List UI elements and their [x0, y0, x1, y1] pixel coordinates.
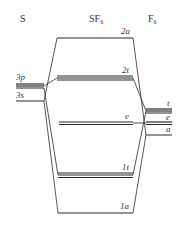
mo-label-1a: 1a [120, 201, 130, 211]
fluorine-label-a: a [166, 124, 171, 134]
correlation-lines-left [44, 38, 58, 213]
mo-level-2t [57, 76, 133, 80]
mo-label-e: e [125, 111, 129, 121]
column-label-sf6: SF6 [89, 13, 103, 25]
mo-level-1t [58, 173, 133, 178]
sulfur-level-3p [16, 84, 44, 88]
sulfur-label-3s: 3s [15, 90, 25, 100]
mo-label-1t: 1t [122, 162, 130, 172]
mo-level-e [59, 122, 133, 125]
fluorine-label-t: t [167, 98, 170, 108]
mo-diagram: S SF6 F6 3p 3s 2a 2t e 1t 1a t [0, 0, 183, 226]
column-label-sulfur: S [20, 13, 26, 24]
fluorine-label-e: e [166, 112, 170, 122]
sulfur-label-3p: 3p [15, 72, 26, 82]
mo-label-2a: 2a [121, 26, 131, 36]
column-label-f6: F6 [148, 13, 157, 25]
correlation-lines-right [133, 38, 146, 213]
mo-label-2t: 2t [122, 65, 130, 75]
